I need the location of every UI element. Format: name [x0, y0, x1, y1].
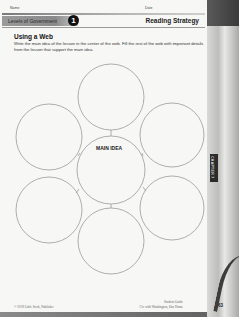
connector-upper-left — [78, 153, 80, 156]
guide-line-2: Civ with Washington, Our Home — [139, 305, 183, 310]
chapter-tab: CHAPTER 7 — [210, 154, 218, 182]
detail-circle-top[interactable] — [78, 64, 144, 130]
page-number: 63 — [218, 303, 223, 308]
main-idea-label: MAIN IDEA — [96, 145, 122, 151]
detail-circle-upper-right[interactable] — [140, 103, 204, 167]
guide-info: Student Guide Civ with Washington, Our H… — [139, 300, 183, 309]
detail-circle-bottom[interactable] — [78, 208, 144, 274]
chapter-label: CHAPTER 7 — [210, 156, 214, 179]
page-curl — [213, 253, 239, 317]
worksheet-page: Name Date Levels of Government 1 Reading… — [0, 0, 207, 312]
detail-circle-lower-left[interactable] — [16, 177, 82, 243]
detail-circle-lower-right[interactable] — [140, 176, 204, 240]
edge-shadow — [207, 0, 239, 26]
copyright: © 2019 Little Scott, Publisher — [14, 305, 54, 309]
detail-circle-upper-left[interactable] — [16, 104, 82, 170]
idea-web-diagram — [0, 0, 207, 312]
